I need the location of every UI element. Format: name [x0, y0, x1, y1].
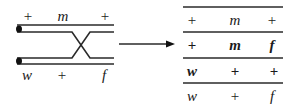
- table-r4-c3: f: [270, 89, 274, 104]
- table-r2-c2: m: [229, 38, 241, 53]
- top-label-1: +: [24, 9, 32, 24]
- table-r4-c1: w: [187, 89, 197, 104]
- table-r1-c3: +: [268, 13, 276, 28]
- bottom-label-1: w: [22, 68, 32, 83]
- table-r3-c2: +: [231, 64, 240, 79]
- bottom-label-3: f: [102, 68, 106, 83]
- table-r1-c2: m: [230, 13, 241, 28]
- centromere-bottom: [16, 58, 22, 65]
- crossover-diagram-graphics: [0, 0, 293, 109]
- table-r2-c1: +: [188, 38, 197, 53]
- right-arrow-icon: [119, 41, 175, 48]
- bottom-label-2: +: [58, 68, 66, 83]
- top-chromosome: [17, 25, 114, 58]
- table-r1-c1: +: [188, 13, 196, 28]
- table-r3-c1: w: [187, 64, 197, 79]
- top-label-2: m: [58, 9, 69, 24]
- bottom-chromosome: [17, 32, 114, 64]
- centromere-top: [16, 26, 22, 33]
- table-r2-c3: f: [270, 38, 275, 53]
- top-label-3: +: [101, 9, 109, 24]
- table-r4-c2: +: [231, 89, 239, 104]
- table-r3-c3: +: [270, 64, 279, 79]
